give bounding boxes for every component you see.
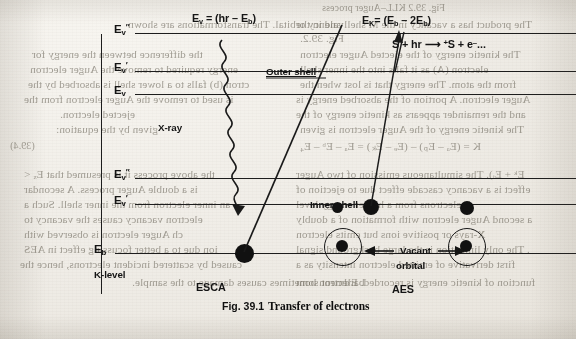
label-aes-text: AES [392,283,414,295]
label-eb-text: Eb [94,243,106,255]
electron-dot-inner-left [332,202,343,213]
scanned-page: Fig. 39.2 KLL–Auger processThe product h… [0,0,576,339]
electron-dot-orbital-right [460,240,472,252]
figure-caption-text: Transfer of electrons [268,300,370,312]
equation-photoelectron: Ev = (hr – Eb) [192,12,256,26]
equation-auger-text: EK= (Eb – 2Eb) [362,14,431,26]
level-line-ev-prime-upper [135,71,576,72]
equation-ionisation: S + hr ⟶ +S + e–... [392,38,486,51]
transition-line-auger [371,34,400,206]
label-ev-double-prime-lower: Ev″ [114,168,130,182]
label-eb: Eb [94,243,106,257]
equation-auger: EK= (Eb – 2Eb) [362,14,431,28]
label-ev-double-prime-upper-text: Ev″ [114,23,130,35]
label-vacant: Vacant [400,245,431,256]
energy-level-diagram: Ev″ Ev′ Ev Ev″ Ev′ Eb Ev = (hr – Eb) EK=… [0,0,576,339]
label-ev-double-prime-upper: Ev″ [114,23,130,37]
label-aes: AES [392,283,414,295]
label-ev-prime-upper: Ev′ [114,61,128,75]
equation-photoelectron-text: Ev = (hr – Eb) [192,12,256,24]
electron-dot-inner-right [460,201,474,215]
figure-number: Fig. 39.1 [222,300,264,312]
level-line-ev-upper [135,94,576,95]
label-outer-shell-text: Outer shell [266,66,316,77]
label-ev-prime-lower-text: Ev′ [114,194,128,206]
transition-line-esca [244,25,342,252]
equation-ionisation-text: S + hr ⟶ +S + e–... [392,38,486,50]
label-ev-upper: Ev [114,84,126,98]
label-xray: X-ray [158,122,182,133]
level-line-ev-double-prime-upper [135,33,576,34]
xray-wavy-arrow [220,40,238,212]
label-esca-text: ESCA [196,281,226,293]
vacant-arrow-left-head [364,246,375,256]
label-ev-double-prime-lower-text: Ev″ [114,168,130,180]
electron-dot-orbital-left [336,240,348,252]
label-ev-upper-text: Ev [114,84,126,96]
label-orbital: orbital [396,260,425,271]
label-vacant-text: Vacant [400,245,431,256]
electron-dot-inner-mid [363,199,379,215]
electron-dot-k-shell [235,244,254,263]
arrowhead-xray [232,204,245,216]
diagram-vector-overlay [0,0,576,339]
label-outer-shell: Outer shell [266,66,316,77]
figure-caption: Fig. 39.1 Transfer of electrons [222,296,370,314]
label-xray-text: X-ray [158,122,182,133]
label-k-level: K-level [94,269,125,280]
label-ev-prime-lower: Ev′ [114,194,128,208]
level-line-ev-double-prime-lower [135,178,576,179]
label-k-level-text: K-level [94,269,125,280]
label-orbital-text: orbital [396,260,425,271]
label-ev-prime-upper-text: Ev′ [114,61,128,73]
label-esca: ESCA [196,281,226,293]
